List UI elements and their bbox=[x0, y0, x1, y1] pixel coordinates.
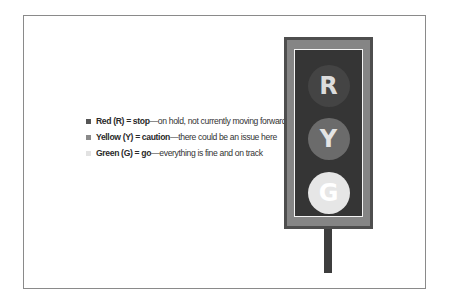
legend-term: Red (R) = stop bbox=[96, 116, 150, 126]
lamp-letter: R bbox=[319, 72, 337, 100]
traffic-light: R Y G bbox=[284, 37, 373, 229]
legend-description: —on hold, not currently moving forward. bbox=[150, 116, 289, 126]
red-lamp-icon: R bbox=[308, 65, 350, 107]
legend-item-red: Red (R) = stop —on hold, not currently m… bbox=[86, 113, 288, 129]
green-swatch-icon bbox=[86, 151, 91, 156]
red-swatch-icon bbox=[86, 119, 91, 124]
lamp-letter: G bbox=[319, 179, 339, 207]
yellow-lamp-icon: Y bbox=[308, 118, 350, 160]
legend: Red (R) = stop —on hold, not currently m… bbox=[86, 113, 288, 161]
green-lamp-icon: G bbox=[308, 172, 350, 214]
legend-description: —everything is fine and on track bbox=[151, 148, 263, 158]
traffic-light-face: R Y G bbox=[294, 49, 363, 217]
legend-term: Yellow (Y) = caution bbox=[96, 132, 170, 142]
traffic-light-pole bbox=[324, 229, 332, 273]
legend-item-yellow: Yellow (Y) = caution —there could be an … bbox=[86, 129, 288, 145]
legend-item-green: Green (G) = go —everything is fine and o… bbox=[86, 145, 288, 161]
legend-description: —there could be an issue here bbox=[170, 132, 277, 142]
lamp-letter: Y bbox=[320, 125, 337, 153]
legend-term: Green (G) = go bbox=[96, 148, 151, 158]
yellow-swatch-icon bbox=[86, 135, 91, 140]
